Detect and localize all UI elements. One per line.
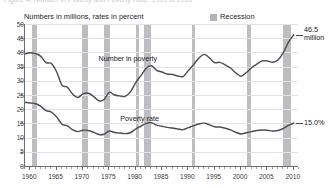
x-tick-mark-minor [66, 167, 67, 169]
x-tick-mark [108, 167, 109, 170]
x-tick-mark-minor [203, 167, 204, 169]
x-tick-label: 1970 [75, 173, 90, 181]
x-tick-mark-minor [103, 167, 104, 169]
y-tick-mark [20, 81, 23, 82]
x-tick-label: 1995 [206, 173, 221, 181]
x-tick-mark-minor [272, 167, 273, 169]
callout-leader-line [296, 123, 303, 124]
y-tick-mark [20, 38, 23, 39]
x-tick-label: 2010 [285, 173, 300, 181]
y-axis: 05101520253035404550 [0, 24, 24, 166]
x-tick-mark-minor [235, 167, 236, 169]
chart-root: Figure 4. Number in Poverty and Poverty … [0, 0, 332, 188]
recession-swatch-icon [210, 14, 217, 21]
callout-number-unit: million [304, 33, 324, 42]
chart-legend: Recession [210, 12, 255, 22]
x-tick-mark-minor [24, 167, 25, 169]
x-tick-mark-minor [77, 167, 78, 169]
x-tick-mark-minor [61, 167, 62, 169]
x-tick-label: 2000 [233, 173, 248, 181]
plot-inner [25, 24, 298, 166]
x-tick-mark-minor [119, 167, 120, 169]
x-tick-mark-minor [50, 167, 51, 169]
x-tick-mark [135, 167, 136, 170]
x-tick-mark-minor [219, 167, 220, 169]
x-tick-mark [56, 167, 57, 170]
x-tick-label: 1960 [22, 173, 37, 181]
legend-label-recession: Recession [220, 12, 255, 22]
x-tick-mark-minor [172, 167, 173, 169]
x-tick-mark-minor [245, 167, 246, 169]
x-tick-mark-minor [124, 167, 125, 169]
x-tick-mark [187, 167, 188, 170]
y-tick-mark [20, 123, 23, 124]
x-tick-mark [266, 167, 267, 170]
x-tick-mark-minor [282, 167, 283, 169]
callout-leader-line [296, 35, 303, 36]
x-tick-mark-minor [114, 167, 115, 169]
x-tick-label: 1990 [180, 173, 195, 181]
x-tick-mark-minor [287, 167, 288, 169]
callout-poverty-rate: 15.0% [304, 119, 324, 128]
x-tick-mark-minor [98, 167, 99, 169]
y-tick-mark [20, 67, 23, 68]
x-tick-label: 2005 [259, 173, 274, 181]
x-axis: 1960196519701975198019851990199520002005… [24, 167, 298, 183]
x-tick-label: 1965 [48, 173, 63, 181]
series-line [25, 35, 294, 101]
x-tick-mark [240, 167, 241, 170]
x-tick-mark-minor [182, 167, 183, 169]
plot-area [24, 24, 298, 166]
y-tick-mark [20, 166, 23, 167]
x-tick-mark-minor [230, 167, 231, 169]
x-tick-label: 1985 [154, 173, 169, 181]
x-tick-mark-minor [277, 167, 278, 169]
chart-subtitle: Numbers in millions, rates in percent [24, 12, 144, 22]
x-tick-mark-minor [93, 167, 94, 169]
x-tick-mark-minor [71, 167, 72, 169]
x-tick-label: 1975 [101, 173, 116, 181]
y-tick-mark [20, 95, 23, 96]
x-tick-mark [214, 167, 215, 170]
x-tick-mark-minor [129, 167, 130, 169]
x-tick-mark-minor [145, 167, 146, 169]
x-tick-mark-minor [298, 167, 299, 169]
x-tick-mark-minor [251, 167, 252, 169]
series-label-poverty-rate: Poverty rate [120, 114, 159, 123]
x-tick-mark-minor [87, 167, 88, 169]
callout-number-in-poverty: 46.5 million [304, 26, 324, 43]
x-tick-mark-minor [40, 167, 41, 169]
x-tick-mark-minor [208, 167, 209, 169]
y-tick-mark [20, 138, 23, 139]
x-tick-mark-minor [177, 167, 178, 169]
series-label-number-in-poverty: Number in poverty [98, 54, 157, 63]
x-tick-mark-minor [156, 167, 157, 169]
x-tick-mark-minor [224, 167, 225, 169]
x-tick-mark-minor [166, 167, 167, 169]
x-tick-mark [29, 167, 30, 170]
x-tick-mark-minor [261, 167, 262, 169]
x-tick-mark-minor [193, 167, 194, 169]
chart-title: Figure 4. Number in Poverty and Poverty … [4, 0, 328, 4]
x-tick-mark-minor [45, 167, 46, 169]
x-tick-mark-minor [198, 167, 199, 169]
y-tick-mark [20, 109, 23, 110]
x-tick-label: 1980 [127, 173, 142, 181]
x-tick-mark [293, 167, 294, 170]
y-tick-mark [20, 52, 23, 53]
series-line [25, 102, 294, 134]
x-tick-mark-minor [256, 167, 257, 169]
x-tick-mark [161, 167, 162, 170]
series-lines [25, 24, 298, 166]
y-tick-mark [20, 152, 23, 153]
x-tick-mark-minor [150, 167, 151, 169]
y-tick-mark [20, 24, 23, 25]
x-tick-mark-minor [35, 167, 36, 169]
x-tick-mark-minor [140, 167, 141, 169]
x-tick-mark [82, 167, 83, 170]
